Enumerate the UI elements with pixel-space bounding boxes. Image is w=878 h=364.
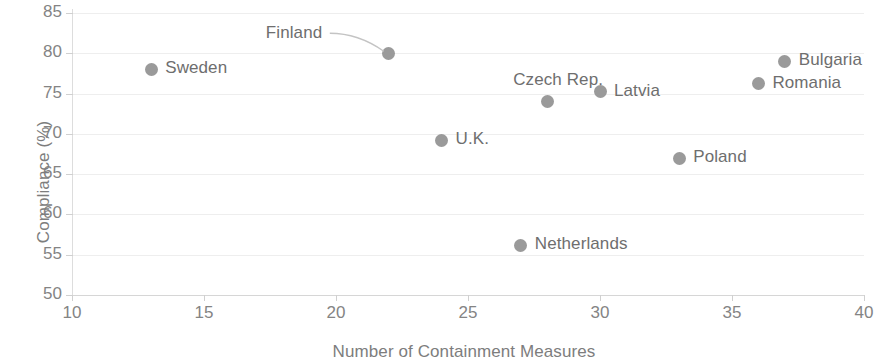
data-point-label: Sweden (165, 58, 227, 78)
x-tick-20 (336, 295, 337, 301)
gridline-y-85 (72, 13, 864, 14)
plot-area: SwedenFinlandCzech Rep.LatviaU.K.Netherl… (72, 13, 864, 295)
x-tick-label-40: 40 (834, 303, 878, 323)
data-point-label: U.K. (456, 129, 489, 149)
x-axis-title: Number of Containment Measures (0, 342, 868, 362)
data-point-label: Finland (266, 23, 322, 43)
leader-line (330, 33, 384, 51)
data-point-label: Latvia (614, 81, 660, 101)
x-tick-35 (732, 295, 733, 301)
data-point-label: Netherlands (535, 234, 628, 254)
x-tick-30 (600, 295, 601, 301)
data-point-label: Czech Rep. (513, 70, 603, 90)
y-axis-title: Compliance (%) (34, 62, 54, 302)
x-tick-label-10: 10 (42, 303, 102, 323)
gridline-y-65 (72, 174, 864, 175)
data-point[interactable] (673, 152, 686, 165)
x-tick-15 (204, 295, 205, 301)
data-point[interactable] (778, 55, 791, 68)
x-tick-10 (72, 295, 73, 301)
y-tick-65 (66, 174, 73, 175)
x-tick-40 (864, 295, 865, 301)
gridline-y-60 (72, 214, 864, 215)
x-tick-25 (468, 295, 469, 301)
y-tick-70 (66, 134, 73, 135)
gridline-y-80 (72, 53, 864, 54)
data-point[interactable] (382, 47, 395, 60)
data-point-label: Poland (693, 147, 747, 167)
data-point[interactable] (514, 239, 527, 252)
data-point[interactable] (541, 95, 554, 108)
data-point[interactable] (752, 77, 765, 90)
data-point[interactable] (145, 63, 158, 76)
x-tick-label-15: 15 (174, 303, 234, 323)
y-tick-60 (66, 214, 73, 215)
x-tick-label-25: 25 (438, 303, 498, 323)
x-tick-label-20: 20 (306, 303, 366, 323)
y-tick-55 (66, 255, 73, 256)
x-tick-label-35: 35 (702, 303, 762, 323)
y-tick-label-80: 80 (22, 42, 62, 62)
data-point[interactable] (594, 85, 607, 98)
data-point-label: Romania (772, 73, 841, 93)
y-tick-85 (66, 13, 73, 14)
data-point[interactable] (435, 134, 448, 147)
gridline-y-55 (72, 255, 864, 256)
y-tick-80 (66, 53, 73, 54)
x-tick-label-30: 30 (570, 303, 630, 323)
y-tick-75 (66, 94, 73, 95)
y-tick-label-85: 85 (22, 2, 62, 22)
gridline-y-75 (72, 94, 864, 95)
data-point-label: Bulgaria (799, 50, 862, 70)
